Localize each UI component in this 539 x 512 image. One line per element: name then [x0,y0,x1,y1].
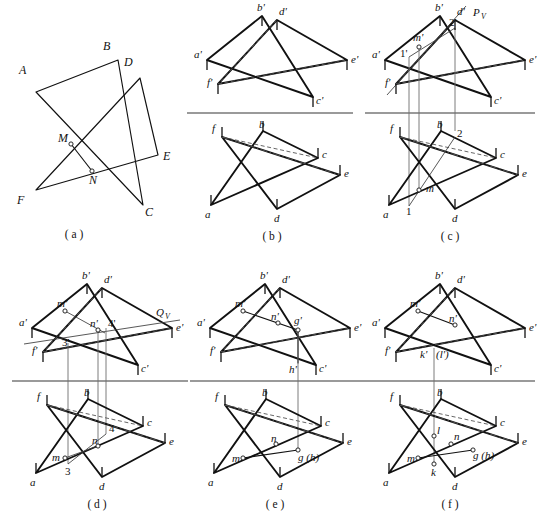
label-c-prime-b: c' [316,94,324,106]
label-d-prime-c: d' [457,5,466,17]
label-m-c: m [426,182,434,194]
label-c-e: c [325,416,330,428]
label-M: M [57,131,69,145]
label-c-d: c [147,416,152,428]
label-f-d: f [37,390,42,402]
label-qv-letter: Q [156,306,164,318]
label-pv-c: P V [472,6,487,21]
label-a-c: a [383,208,389,220]
label-a-prime-e: a' [197,316,206,328]
label-B: B [103,39,111,53]
label-gh-f: g (h) [473,449,494,462]
point-m-marker-e [241,456,245,460]
segment-m-gh-top-f [418,450,473,458]
panel-d: b' d' m' n' 4' Q V a' e' 3' f' c' b n 4 … [12,269,188,511]
label-c-prime-f: c' [494,362,502,374]
label-b-prime-f: b' [435,269,444,281]
point-m-marker-f [416,456,420,460]
label-d-prime-e: d' [282,273,291,285]
label-3-prime-d: 3' [62,336,70,348]
label-b-prime-c: b' [435,1,444,13]
panel-f-caption: ( f ) [441,498,458,511]
label-b-d: b [84,386,90,398]
label-b-prime-e: b' [260,269,269,281]
label-e-e: e [347,435,352,447]
label-qv-subscript: V [165,312,171,321]
label-g-prime-e: g' [294,314,303,326]
label-c-prime-c: c' [494,94,502,106]
panel-a: A B C D E F M N ( a ) [16,39,171,241]
label-n-e: n [271,432,277,444]
label-3-d: 3 [65,465,71,477]
label-k-f: k [431,466,437,478]
label-D: D [123,55,133,69]
label-qv-d: Q V [156,306,171,321]
panel-c-caption: ( c ) [441,230,460,243]
label-pv-letter: P [472,6,480,18]
label-l-f: l [437,424,440,436]
label-b-e: b [262,386,268,398]
point-g-prime-marker-e [296,328,300,332]
label-f-prime-f: f' [385,344,391,356]
panel-c: b' d' P V 2' m' 1' a' e' f' c' b 2 m 1 c… [365,1,537,243]
panel-a-caption: ( a ) [65,228,84,241]
label-C: C [145,205,154,219]
point-m-prime-marker-e [241,309,245,313]
label-a-d: a [30,476,36,488]
point-n-marker-f [449,442,453,446]
point-m-prime-marker-d [63,309,67,313]
label-e-f: e [522,435,527,447]
point-m-marker-c [417,188,421,192]
label-a-e: a [208,476,214,488]
label-F: F [16,193,25,207]
label-gh-e: g (h) [298,451,319,464]
label-f-f: f [390,390,395,402]
label-n-prime-d: n' [90,317,99,329]
label-e-prime-b: e' [351,53,359,65]
label-E: E [162,149,171,163]
label-e-prime-d: e' [176,321,184,333]
label-pv-subscript: V [481,12,487,21]
label-f-c: f [390,122,395,134]
label-e-prime-f: e' [529,321,537,333]
label-h-prime-e: h' [289,363,298,375]
point-m-prime-marker-f [416,309,420,313]
front-triangle-def-c [396,20,525,84]
label-d-prime-f: d' [457,273,466,285]
label-k-prime-f: k' [420,348,428,360]
label-d-f: d [452,480,458,492]
label-b-prime-b: b' [257,1,266,13]
label-f-prime-c: f' [385,76,391,88]
label-f-e: f [215,390,220,402]
label-b-prime-d: b' [82,269,91,281]
segment-m-gh-top-e [243,450,298,458]
front-triangle-abc-d [32,284,138,365]
label-d-e: d [277,480,283,492]
front-triangle-def-b [218,20,347,84]
label-l-prime-f: (l') [436,348,449,361]
label-c-prime-d: c' [141,362,149,374]
panel-b: b' d' a' e' f' c' b c e d a f ( b ) [187,1,359,243]
label-m-prime-e: m' [235,297,246,309]
point-m-marker-d [63,456,67,460]
label-a-prime-d: a' [19,316,28,328]
label-c-c: c [500,148,505,160]
label-n-f: n [454,430,460,442]
label-m-d: m [52,451,60,463]
label-2-prime-c: 2' [449,16,457,28]
point-l-marker-f [432,434,436,438]
label-e-b: e [344,167,349,179]
label-f-prime-e: f' [210,344,216,356]
panel-e-caption: ( e ) [266,498,285,511]
label-b-f: b [437,386,443,398]
label-b-c: b [437,118,443,130]
label-4-prime-d: 4' [108,317,116,329]
label-2-c: 2 [457,127,463,139]
label-n-prime-e: n' [271,310,280,322]
panel-e: b' d' m' n' g' h' a' e' f' c' b n m g (h… [190,269,366,511]
point-m-marker [69,142,73,146]
label-d-d: d [99,480,105,492]
label-a-b: a [205,208,211,220]
label-f-prime-b: f' [207,76,213,88]
label-e-prime-e: e' [354,321,362,333]
